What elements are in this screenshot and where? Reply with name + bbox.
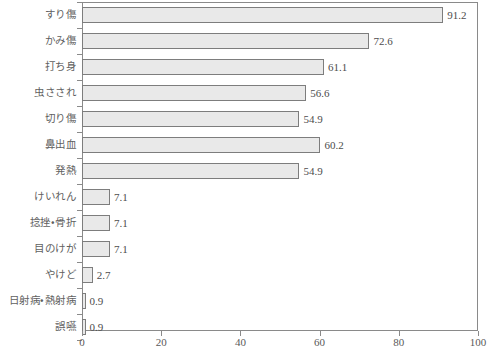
category-tick-mark [77, 158, 82, 159]
bar [82, 85, 306, 101]
category-label: 日射病・熱射病 [9, 288, 77, 314]
bar-value-label: 0.9 [86, 288, 104, 314]
category-label: 虫さされ [34, 80, 76, 106]
x-axis-tick-label: 0 [79, 336, 85, 348]
bar [82, 33, 369, 49]
bar-row: 切り傷54.9 [0, 106, 494, 132]
category-label: かみ傷 [45, 28, 77, 54]
bar-row: 発熱54.9 [0, 158, 494, 184]
bar-value-label: 91.2 [443, 2, 466, 28]
category-label: 捻挫・骨折 [30, 210, 77, 236]
category-tick-mark [77, 106, 82, 107]
x-axis-tick-label: 100 [470, 336, 487, 348]
category-label: 目のけが [34, 236, 76, 262]
x-axis-tick-label: 20 [156, 336, 167, 348]
category-tick-mark [77, 2, 82, 3]
bar-row: 誤嚥0.9 [0, 314, 494, 340]
bar-row: 捻挫・骨折7.1 [0, 210, 494, 236]
category-label: 打ち身 [45, 54, 77, 80]
bar [82, 59, 324, 75]
category-label: 切り傷 [45, 106, 77, 132]
category-label: 鼻出血 [45, 132, 77, 158]
bar-value-label: 7.1 [110, 236, 128, 262]
bar-row: すり傷91.2 [0, 2, 494, 28]
bar-row: けいれん7.1 [0, 184, 494, 210]
bar [82, 267, 93, 283]
category-label: 誤嚥 [55, 314, 76, 340]
bar-row: 鼻出血60.2 [0, 132, 494, 158]
bar-value-label: 54.9 [299, 158, 322, 184]
bar [82, 137, 320, 153]
category-label: すり傷 [45, 2, 77, 28]
category-tick-mark [77, 236, 82, 237]
bar-value-label: 54.9 [299, 106, 322, 132]
category-tick-mark [77, 80, 82, 81]
category-label: けいれん [34, 184, 76, 210]
category-tick-mark [77, 314, 82, 315]
bar-row: 打ち身61.1 [0, 54, 494, 80]
category-tick-mark [77, 54, 82, 55]
bar-value-label: 61.1 [324, 54, 347, 80]
category-tick-mark [77, 28, 82, 29]
bar-row: 目のけが7.1 [0, 236, 494, 262]
x-axis-tick-label: 40 [235, 336, 246, 348]
bar-value-label: 2.7 [93, 262, 111, 288]
bar [82, 7, 443, 23]
category-tick-mark [77, 262, 82, 263]
bar [82, 111, 299, 127]
bar-value-label: 7.1 [110, 210, 128, 236]
bar-value-label: 60.2 [320, 132, 343, 158]
bar [82, 163, 299, 179]
bar-chart: すり傷91.2かみ傷72.6打ち身61.1虫さされ56.6切り傷54.9鼻出血6… [0, 0, 494, 356]
category-tick-mark [77, 288, 82, 289]
x-axis-tick-label: 60 [314, 336, 325, 348]
bar-value-label: 0.9 [86, 314, 104, 340]
category-tick-mark [77, 184, 82, 185]
bar [82, 241, 110, 257]
bar-value-label: 7.1 [110, 184, 128, 210]
category-tick-mark [77, 132, 82, 133]
category-label: 発熱 [55, 158, 76, 184]
bar-value-label: 72.6 [369, 28, 392, 54]
bar-value-label: 56.6 [306, 80, 329, 106]
bar-row: 日射病・熱射病0.9 [0, 288, 494, 314]
bar-row: かみ傷72.6 [0, 28, 494, 54]
category-label: やけど [45, 262, 77, 288]
bar [82, 189, 110, 205]
category-tick-mark [77, 210, 82, 211]
bar [82, 215, 110, 231]
bar-row: 虫さされ56.6 [0, 80, 494, 106]
x-axis-tick-label: 80 [393, 336, 404, 348]
bar-row: やけど2.7 [0, 262, 494, 288]
